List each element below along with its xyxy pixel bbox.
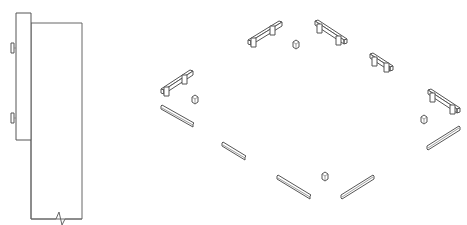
post-top	[293, 40, 299, 49]
hinge-top	[11, 43, 16, 53]
bench-right-upper	[370, 53, 393, 72]
plank-center-left	[222, 142, 246, 160]
break-line-icon	[31, 212, 82, 225]
post-left	[192, 95, 198, 104]
bench-top-right	[315, 20, 347, 45]
post-bottom	[322, 172, 328, 181]
plank-bottom-left	[277, 175, 311, 199]
side-elevation	[11, 13, 82, 225]
bench-right-lower	[428, 89, 460, 114]
isometric-drawing	[0, 0, 467, 225]
plank-right	[427, 126, 460, 150]
plank-left	[161, 105, 194, 127]
post-right	[421, 115, 427, 124]
drawing-canvas	[0, 0, 467, 225]
hinge-bottom	[11, 113, 16, 123]
bench-top-left	[248, 21, 282, 47]
door-panel	[16, 13, 31, 140]
bench-left	[161, 70, 193, 96]
plank-bottom-right	[341, 175, 374, 199]
frame-outline	[31, 23, 82, 219]
